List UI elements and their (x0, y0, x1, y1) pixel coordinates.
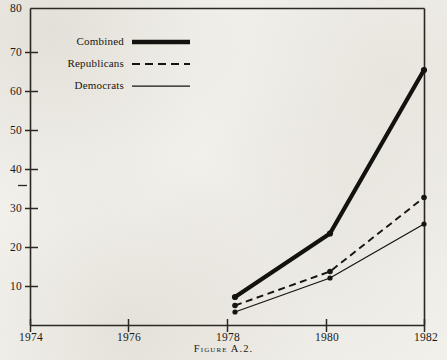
y-axis-label-70: 70 (0, 46, 22, 58)
legend-item-republicans: Republicans (40, 57, 124, 69)
y-axis-label-30: 30 (0, 202, 22, 214)
series-combined (232, 67, 427, 300)
line-chart-plot (0, 0, 447, 360)
x-axis-label-1980: 1980 (306, 331, 348, 343)
point-republicans-1982 (421, 195, 427, 201)
series-republicans (232, 195, 427, 309)
point-combined-1982 (421, 67, 427, 73)
point-republicans-1978 (232, 303, 238, 309)
y-axis-label-20: 20 (0, 241, 22, 253)
point-democrats-1978 (232, 309, 237, 314)
series-republicans-line (235, 198, 424, 306)
legend-samples (132, 42, 190, 86)
y-axis-label-50: 50 (0, 124, 22, 136)
point-democrats-1982 (421, 221, 426, 226)
point-combined-1978 (232, 294, 238, 300)
point-combined-1980 (327, 230, 333, 236)
figure-container: 80 70 60 50 40 30 20 10 1974 1976 1978 1… (0, 0, 447, 360)
y-axis-ticks (25, 53, 38, 287)
figure-caption: Figure A.2. (0, 343, 447, 354)
series-democrats-line (235, 224, 424, 312)
legend-item-democrats: Democrats (40, 79, 124, 91)
x-axis-label-1976: 1976 (108, 331, 150, 343)
point-republicans-1980 (327, 269, 333, 275)
y-axis-label-40: 40 (0, 163, 22, 175)
series-combined-line (235, 70, 424, 297)
x-axis-label-1978: 1978 (207, 331, 249, 343)
y-axis-label-10: 10 (0, 280, 22, 292)
x-axis-label-1982: 1982 (405, 331, 447, 343)
y-axis-label-60: 60 (0, 85, 22, 97)
point-democrats-1980 (327, 275, 332, 280)
y-axis-label-80: 80 (0, 2, 22, 14)
legend-item-combined: Combined (40, 35, 124, 47)
x-axis-label-1974: 1974 (10, 331, 52, 343)
